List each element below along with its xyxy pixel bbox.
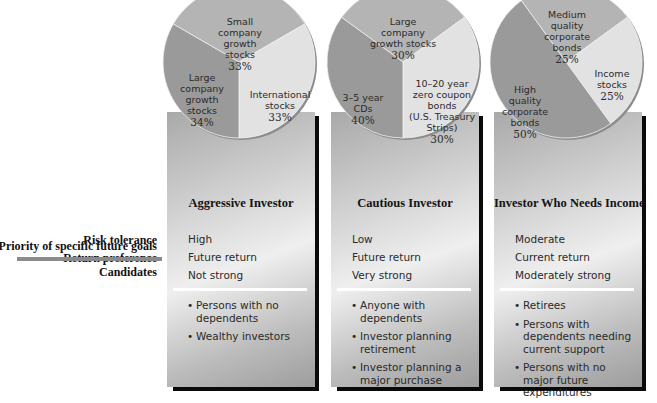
slice-label-zero-coupon-bonds: 10–20 year zero coupon bonds (U.S. Treas… xyxy=(404,78,480,146)
slice-label-large-company: Large company growth stocks34% xyxy=(174,72,230,129)
return-preference-value: Current return xyxy=(515,251,590,263)
return-preference-value: Future return xyxy=(352,251,421,263)
panel-income-investor: Investor Who Needs Income Moderate Curre… xyxy=(494,112,642,387)
investor-profiles-diagram: Risk tolerance Return preference Priorit… xyxy=(0,0,657,403)
priority-goals-value: Moderately strong xyxy=(515,269,611,281)
priority-goals-value: Very strong xyxy=(352,269,412,281)
candidate-item: •Anyone with dependents xyxy=(351,299,475,324)
candidate-item: •Retirees xyxy=(514,299,638,312)
row-label-candidates: Candidates xyxy=(99,265,157,280)
candidates-list: •Retirees •Persons with dependents needi… xyxy=(514,299,638,403)
bullet-icon: • xyxy=(351,299,357,312)
panel-divider xyxy=(173,288,307,291)
candidate-text: Persons with dependents needing current … xyxy=(523,318,631,355)
candidate-item: •Persons with no dependents xyxy=(187,299,311,324)
slice-label-international: International stocks33% xyxy=(246,89,314,124)
bullet-icon: • xyxy=(187,330,193,343)
candidate-text: Persons with no major future expenditure… xyxy=(523,361,606,398)
candidate-item: •Investor planning a major purchase xyxy=(351,361,475,386)
left-divider-bar xyxy=(17,257,162,261)
risk-tolerance-value: High xyxy=(188,233,212,245)
panel-title: Aggressive Investor xyxy=(167,196,315,211)
panel-cautious-investor: Cautious Investor Low Future return Very… xyxy=(331,112,479,387)
candidate-text: Investor planning retirement xyxy=(360,330,452,355)
candidate-text: Wealthy investors xyxy=(196,330,290,342)
panel-divider xyxy=(337,288,471,291)
bullet-icon: • xyxy=(514,299,520,312)
bullet-icon: • xyxy=(351,330,357,343)
priority-goals-value: Not strong xyxy=(188,269,243,281)
row-label-priority-goals: Priority of specific future goals xyxy=(0,239,157,254)
slice-label-income-stocks: Income stocks25% xyxy=(587,68,637,103)
candidates-list: •Anyone with dependents •Investor planni… xyxy=(351,299,475,392)
bullet-icon: • xyxy=(187,299,193,312)
slice-label-high-quality-bonds: High quality corporate bonds50% xyxy=(497,84,553,141)
candidate-item: •Persons with dependents needing current… xyxy=(514,318,638,356)
candidate-text: Anyone with dependents xyxy=(360,299,425,324)
risk-tolerance-value: Low xyxy=(352,233,373,245)
pie-chart-income: Medium quality corporate bonds25% Income… xyxy=(489,0,643,139)
pie-chart-aggressive: Small company growth stocks33% Internati… xyxy=(162,0,316,139)
candidate-item: •Investor planning retirement xyxy=(351,330,475,355)
risk-tolerance-value: Moderate xyxy=(515,233,565,245)
candidate-text: Persons with no dependents xyxy=(196,299,279,324)
pie-chart-cautious: Large company growth stocks30% 10–20 yea… xyxy=(326,0,480,139)
candidates-list: •Persons with no dependents •Wealthy inv… xyxy=(187,299,311,349)
candidate-text: Retirees xyxy=(523,299,566,311)
candidate-item: •Wealthy investors xyxy=(187,330,311,343)
return-preference-value: Future return xyxy=(188,251,257,263)
panel-title: Investor Who Needs Income xyxy=(494,196,642,211)
bullet-icon: • xyxy=(351,361,357,374)
slice-label-large-company: Large company growth stocks30% xyxy=(361,16,445,62)
bullet-icon: • xyxy=(514,318,520,331)
slice-label-cds: 3–5 year CDs40% xyxy=(338,92,388,127)
candidate-item: •Persons with no major future expenditur… xyxy=(514,361,638,399)
panel-title: Cautious Investor xyxy=(331,196,479,211)
candidate-text: Investor planning a major purchase xyxy=(360,361,461,386)
panel-divider xyxy=(500,288,634,291)
slice-label-small-company: Small company growth stocks33% xyxy=(212,16,268,73)
panel-aggressive-investor: Aggressive Investor High Future return N… xyxy=(167,112,315,387)
slice-label-medium-quality-bonds: Medium quality corporate bonds25% xyxy=(537,9,597,66)
bullet-icon: • xyxy=(514,361,520,374)
